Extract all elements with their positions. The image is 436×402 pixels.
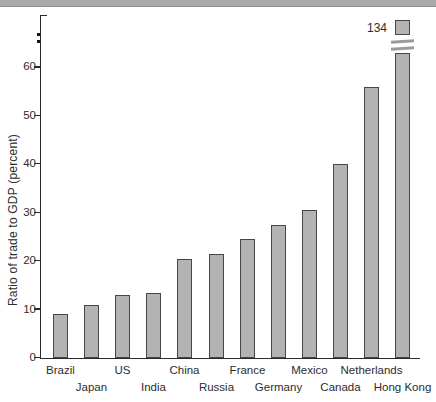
bar-label-germany: Germany [255,381,302,394]
y-axis-line [40,15,41,358]
bar-us [115,295,130,358]
bar-label-hong-kong: Hong Kong [374,381,432,394]
bar-break-line [391,39,414,43]
bar-canada [333,164,348,358]
bar-mexico [302,210,317,358]
bar-label-canada: Canada [320,381,360,394]
bar-label-india: India [141,381,166,394]
bar-hong-kong-top-segment [395,20,410,35]
bar-russia [209,254,224,358]
y-tick-label: 40 [14,157,36,170]
y-tick-label: 0 [14,351,36,364]
bar-label-mexico: Mexico [291,364,327,377]
bar-label-netherlands: Netherlands [340,364,402,377]
trade-gdp-bar-chart: Ratio of trade to GDP (percent) 01020304… [0,0,436,402]
y-tick-label: 50 [14,109,36,122]
bar-label-japan: Japan [76,381,107,394]
bar-label-russia: Russia [199,381,234,394]
bar-hong-kong [395,53,410,358]
bar-india [146,293,161,358]
x-axis-line [40,358,420,359]
bar-germany [271,225,286,358]
y-tick-label: 30 [14,206,36,219]
y-tick-label: 10 [14,303,36,316]
axis-break-dot [37,33,40,36]
bar-label-brazil: Brazil [46,364,75,377]
bar-japan [84,305,99,358]
break-annotation: 134 [355,22,387,35]
y-tick-label: 60 [14,60,36,73]
bar-france [240,239,255,358]
bar-brazil [53,314,68,358]
bar-label-china: China [169,364,199,377]
bar-break-line [391,46,414,50]
bar-label-us: US [115,364,131,377]
axis-break-dot [37,40,40,43]
bar-label-france: France [230,364,266,377]
bar-netherlands [364,87,379,358]
window-top-strip [0,0,436,7]
y-tick-label: 20 [14,254,36,267]
y-axis-top-tick [40,15,47,16]
bar-china [177,259,192,358]
